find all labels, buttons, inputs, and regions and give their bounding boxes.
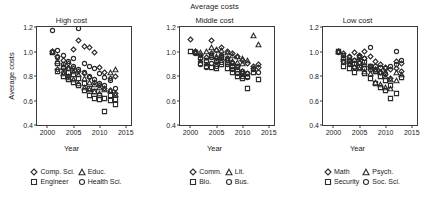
y-axis-tick-mark	[177, 76, 180, 77]
plot-area: 1.21.00.80.60.42000200520102015	[36, 26, 132, 126]
legend-label: Bio.	[199, 178, 211, 185]
legend-label: Security	[334, 178, 359, 185]
x-axis-tick-label: 2000	[183, 129, 199, 136]
legend-label: Soc. Sci.	[372, 178, 400, 185]
y-axis-tick-mark	[34, 51, 37, 52]
data-point	[71, 47, 76, 52]
y-axis-tick-mark	[34, 125, 37, 126]
legend-item: Bus.	[226, 178, 249, 185]
y-axis-tick-mark	[34, 27, 37, 28]
y-axis-tick-label: 0.6	[309, 97, 319, 104]
legend-marker-square-icon	[325, 179, 331, 185]
data-point	[256, 77, 261, 82]
legend-marker-triangle-icon	[79, 169, 85, 175]
y-axis-tick-label: 1.2	[309, 24, 319, 31]
legend-item: Psych.	[363, 168, 400, 175]
y-axis-tick-mark	[34, 100, 37, 101]
legend-label: Math	[334, 168, 350, 175]
data-point	[362, 56, 367, 61]
data-point	[245, 58, 250, 63]
y-axis-tick-label: 0.4	[166, 122, 176, 129]
legend-label: Comm.	[199, 168, 222, 175]
x-axis-tick-label: 2015	[404, 129, 420, 136]
x-axis-tick-mark	[125, 125, 126, 128]
data-point	[102, 109, 107, 114]
data-point	[256, 42, 261, 47]
data-point	[71, 56, 76, 61]
data-point	[113, 97, 118, 102]
data-point	[102, 83, 107, 88]
legend-item: Engineer	[31, 178, 74, 185]
data-point	[245, 75, 250, 80]
legend-item: Soc. Sci.	[363, 178, 400, 185]
scatter-points	[180, 27, 274, 125]
data-point	[113, 86, 118, 91]
scatter-points	[323, 27, 417, 125]
y-axis-tick-label: 0.8	[309, 73, 319, 80]
y-axis-tick-label: 0.6	[23, 97, 33, 104]
x-axis-tick-mark	[73, 125, 74, 128]
legend: Comm.Lit.Bio.Bus.	[153, 168, 286, 185]
data-point	[108, 78, 113, 83]
y-axis-tick-label: 0.4	[23, 122, 33, 129]
y-axis-tick-mark	[320, 27, 323, 28]
x-axis-tick-mark	[242, 125, 243, 128]
legend-item: Comp. Sci.	[31, 168, 74, 175]
data-point	[399, 75, 404, 80]
x-axis-tick-mark	[411, 125, 412, 128]
legend-item: Lit.	[226, 168, 249, 175]
y-axis-tick-mark	[320, 100, 323, 101]
panel-high-cost: High cost 1.21.00.80.60.4200020052010201…	[0, 0, 143, 200]
panel-title: Middle cost	[143, 16, 286, 25]
figure: Average costs Average costs High cost 1.…	[0, 0, 429, 200]
y-axis-tick-mark	[320, 125, 323, 126]
x-axis-tick-label: 2005	[209, 129, 225, 136]
x-axis-label: Year	[286, 144, 429, 153]
legend-item: Math	[325, 168, 359, 175]
x-axis-tick-mark	[190, 125, 191, 128]
y-axis-tick-mark	[320, 51, 323, 52]
panel-low-cost: Low cost 1.21.00.80.60.42000200520102015…	[286, 0, 429, 200]
data-point	[245, 86, 250, 91]
data-point	[113, 67, 118, 72]
x-axis-tick-mark	[385, 125, 386, 128]
y-axis-tick-mark	[177, 125, 180, 126]
panel-title: Low cost	[286, 16, 429, 25]
y-axis-tick-label: 0.8	[166, 73, 176, 80]
y-axis-tick-mark	[320, 76, 323, 77]
y-axis-tick-label: 0.6	[166, 97, 176, 104]
x-axis-tick-mark	[333, 125, 334, 128]
data-point	[61, 53, 66, 58]
legend-marker-circle-icon	[226, 179, 232, 185]
x-axis-tick-label: 2005	[352, 129, 368, 136]
legend-marker-square-icon	[31, 179, 37, 185]
data-point	[394, 49, 399, 54]
legend-label: Engineer	[40, 178, 68, 185]
data-point	[209, 38, 214, 43]
data-point	[394, 62, 399, 67]
panel-middle-cost: Middle cost 1.21.00.80.60.42000200520102…	[143, 0, 286, 200]
y-axis-tick-label: 0.4	[309, 122, 319, 129]
x-axis-tick-label: 2010	[378, 129, 394, 136]
data-point	[256, 70, 261, 75]
data-point	[92, 50, 97, 55]
legend-marker-triangle-icon	[226, 169, 232, 175]
data-point	[188, 37, 193, 42]
legend: Comp. Sci.Educ.EngineerHealth Sci.	[10, 168, 143, 185]
y-axis-tick-mark	[34, 76, 37, 77]
legend-item: Comm.	[190, 168, 222, 175]
legend-label: Comp. Sci.	[40, 168, 74, 175]
panel-title: High cost	[0, 16, 143, 25]
legend-label: Health Sci.	[88, 178, 122, 185]
data-point	[113, 102, 118, 107]
legend-marker-diamond-icon	[31, 169, 37, 175]
legend-marker-circle-icon	[79, 179, 85, 185]
legend-marker-square-icon	[190, 179, 196, 185]
legend-label: Psych.	[372, 168, 393, 175]
x-axis-tick-mark	[216, 125, 217, 128]
legend-item: Security	[325, 178, 359, 185]
y-axis-tick-label: 1.2	[23, 24, 33, 31]
x-axis-tick-mark	[268, 125, 269, 128]
legend-item: Health Sci.	[79, 178, 122, 185]
x-axis-tick-label: 2000	[40, 129, 56, 136]
